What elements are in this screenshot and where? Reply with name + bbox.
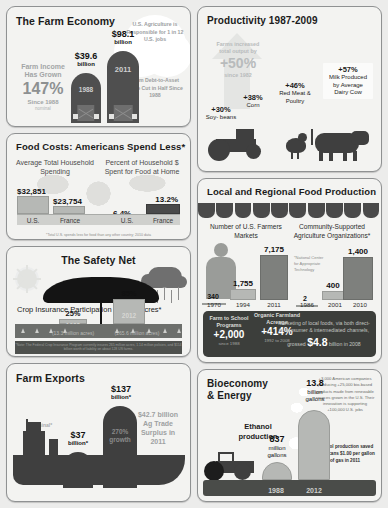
left-column: The Farm Economy Farm Income Has Grown 1… [6, 6, 191, 502]
exports-label-2011: $137 billion* [101, 384, 141, 400]
organic-farmland-line1: Organic Farmland [253, 312, 301, 319]
panel-local-regional: Local and Regional Food Production Numbe… [197, 178, 382, 363]
local-bar-2011 [260, 255, 288, 300]
economy-year-1988: 1988 [71, 86, 101, 93]
farm-income-line2: Has Grown [15, 71, 71, 79]
local-csa-footnote: *National Center for Appropriate Technol… [294, 255, 324, 272]
panel-title-food-costs: Food Costs: Americans Spend Less* [7, 134, 190, 152]
marketing-text-pre: Marketing of local foods, via both direc… [278, 320, 370, 334]
stat-soybeans-value: +30% [204, 105, 238, 114]
silo-window-left [73, 114, 78, 119]
stat-corn-value: +38% [236, 93, 270, 102]
stat-soybeans: +30% Soy- beans [204, 105, 238, 122]
ag-trade-surplus-text: $42.7 billion Ag Trade Surplus in 2011 [134, 410, 182, 446]
local-year-1994: 1994 [229, 301, 257, 308]
marketing-gross-value: $4.8 [307, 336, 327, 348]
marketing-text-mid: grossed [287, 341, 307, 347]
panel-title-local-regional: Local and Regional Food Production [198, 179, 381, 197]
bio-label-2012: 13.8 billion gallons [298, 378, 332, 403]
prod-arrow-line2: total output by [208, 48, 268, 55]
tractor-icon [206, 125, 268, 161]
stat-red-meat-poultry: +46% Red Meat & Poultry [274, 81, 316, 105]
stat-milk-label: Milk Produced by Average Dairy Cow [326, 74, 370, 97]
local-value-2011: 7,175 [258, 245, 290, 254]
stat-corn-label: Corn [236, 102, 270, 110]
right-column: Productivity 1987-2009 Farms increased t… [197, 6, 382, 502]
farm-income-since: Since 1988 [15, 99, 71, 106]
food-value-france-spending: $23,754 [53, 197, 82, 206]
safety-bar-2012: 2012 [113, 299, 145, 324]
food-footnote: *Total U.S. spends less for food than an… [7, 233, 190, 237]
stat-corn: +38% Corn [236, 93, 270, 110]
food-axis-label-us-1: U.S. [15, 217, 51, 224]
safety-footnote: *Note: The Federal Crop Insurance Progra… [15, 341, 182, 355]
food-bar-us-spending [17, 196, 49, 214]
ship-flag-icon [27, 422, 41, 431]
economy-unit-1988: billion [69, 61, 103, 67]
farm-income-note: Farm Income Has Grown 147% Since 1988 no… [15, 63, 71, 112]
local-year-1970: 1970 [200, 301, 228, 308]
ship-cabin [23, 431, 45, 457]
silo-window-left [109, 114, 114, 119]
economy-silo-2011: 2011 [107, 51, 139, 123]
local-group1-heading: Number of U.S. Farmers Markets [204, 223, 288, 240]
food-axis-label-france-1: France [51, 217, 89, 224]
farm-income-percent: 147% [15, 80, 71, 98]
local-bar-2010 [343, 257, 373, 300]
silo-window-right [94, 114, 99, 119]
bio-value-1988: 837 [260, 434, 294, 445]
local-value-1994: 1,755 [228, 279, 258, 288]
food-axis-label-france-2: France [142, 217, 184, 224]
farm-to-school-value: +2,000 [205, 329, 253, 342]
local-stats-band: Farm to School Programs +2,000 since 198… [203, 311, 376, 357]
farm-income-nominal: nominal [15, 106, 71, 111]
panel-title-bioeconomy: Bioeconomy & Energy [198, 370, 276, 402]
safety-acres-2012: (265.6 million acres) [103, 330, 171, 336]
economy-bar-label-2011: $98.1 billion [105, 29, 141, 45]
panel-food-costs: Food Costs: Americans Spend Less* Averag… [6, 133, 191, 240]
market-awning-graphic [198, 203, 381, 218]
economy-year-2011: 2011 [107, 65, 139, 74]
safety-value-1988: 25% [59, 309, 87, 318]
local-group2-heading: Community-Supported Agriculture Organiza… [287, 223, 377, 240]
economy-bar-label-1988: $39.6 billion [69, 51, 103, 67]
stat-meat-value: +46% [274, 81, 316, 90]
prod-arrow-line1: Farms increased [208, 41, 268, 48]
bio-year-1988: 1988 [258, 487, 294, 494]
exports-unit-1988: billion* [61, 440, 95, 446]
sun-icon [17, 269, 37, 289]
bio-bar-2012 [298, 410, 330, 480]
productivity-arrow-text: Farms increased total output by +50% sin… [208, 41, 268, 79]
panel-title-productivity: Productivity 1987-2009 [198, 7, 381, 26]
infographic-sheet: The Farm Economy Farm Income Has Grown 1… [0, 0, 388, 508]
farm-to-school-line2: Programs [205, 322, 253, 329]
local-foods-marketing-text: Marketing of local foods, via both direc… [278, 320, 370, 351]
panel-farm-economy: The Farm Economy Farm Income Has Grown 1… [6, 6, 191, 127]
economy-unit-2011: billion [105, 39, 141, 45]
panel-title-farm-economy: The Farm Economy [7, 7, 190, 27]
farm-to-school-since: since 1988 [205, 341, 253, 347]
safety-acres-1988: (13.3 million acres) [43, 330, 103, 336]
economy-value-2011: $98.1 [105, 29, 141, 39]
safety-year-2012: 2012 [114, 312, 144, 319]
local-bar-1994 [230, 289, 256, 300]
economy-value-1988: $39.6 [69, 51, 103, 61]
stat-milk: +57% Milk Produced by Average Dairy Cow [323, 63, 373, 99]
ship-smokestack [49, 439, 58, 457]
stat-meat-label: Red Meat & Poultry [274, 90, 316, 105]
local-value-1970: 340 [200, 293, 226, 300]
panel-title-safety-net: The Safety Net [7, 247, 190, 266]
cow-icon [309, 121, 371, 161]
prod-arrow-since: since 1982 [208, 72, 268, 79]
food-group1-heading: Average Total Household Spending [15, 158, 95, 176]
cargo-ship-icon [13, 455, 185, 485]
food-axis-label-us-2: U.S. [109, 217, 145, 224]
bio-year-2012: 2012 [296, 487, 332, 494]
food-group2-heading: Percent of Household $ Spent for Food at… [100, 158, 184, 176]
silo-door [114, 105, 133, 121]
economy-silo-1988: 1988 [71, 73, 101, 123]
exports-growth-2011: 270% growth [103, 428, 137, 444]
stat-milk-value: +57% [326, 65, 370, 74]
local-year-1986: 1986 [293, 301, 321, 308]
food-value-us-spending: $32,851 [17, 187, 46, 196]
